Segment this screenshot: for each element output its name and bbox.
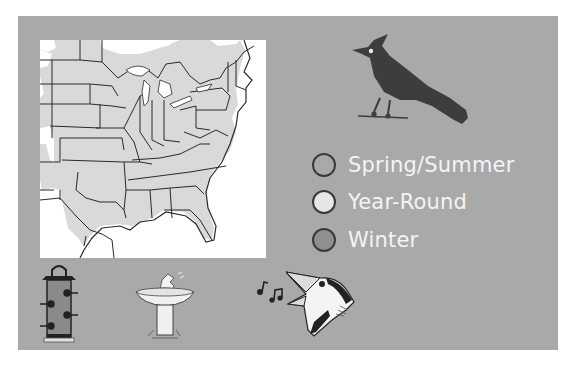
music-notes-icon — [256, 280, 286, 304]
season-legend: Spring/Summer Year-Round Winter — [312, 146, 515, 259]
legend-label: Winter — [348, 228, 418, 252]
swatch-year-round — [312, 190, 336, 214]
legend-label: Year-Round — [348, 190, 467, 214]
legend-item-winter: Winter — [312, 221, 515, 259]
range-map — [40, 40, 266, 258]
swatch-spring-summer — [312, 153, 336, 177]
bird-feeder-icon — [36, 264, 82, 348]
singing-bird-icon — [286, 270, 358, 340]
birdbath-icon — [134, 272, 196, 340]
swatch-winter — [312, 228, 336, 252]
legend-item-year-round: Year-Round — [312, 184, 515, 222]
legend-item-spring-summer: Spring/Summer — [312, 146, 515, 184]
crested-bird-icon — [350, 34, 472, 132]
eastern-us-map-icon — [40, 40, 266, 258]
legend-label: Spring/Summer — [348, 153, 515, 177]
